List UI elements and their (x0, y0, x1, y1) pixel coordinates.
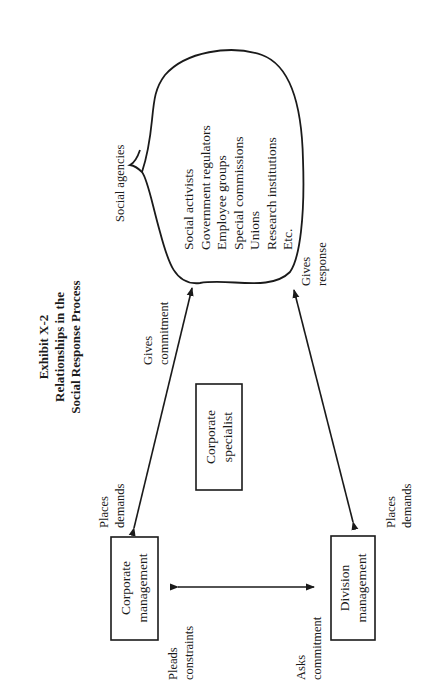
member-item: Government regulators (198, 125, 215, 250)
member-item: Etc. (280, 125, 297, 250)
member-item: Research institutions (264, 125, 281, 250)
title-line-1: Exhibit X-2 (36, 262, 52, 432)
arrow-div-agencies (294, 290, 353, 522)
member-item: Special commissions (231, 125, 248, 250)
corporate-management-label: Corporate management (117, 541, 151, 635)
member-item: Social activists (181, 125, 198, 250)
pleads-constraints-label: Pleads constraints (165, 626, 197, 680)
division-management-label: Division management (336, 541, 370, 635)
social-agencies-pointer (130, 150, 142, 172)
places-demands-corp-label: Places demands (96, 484, 128, 528)
gives-commitment-label: Gives commitment (140, 302, 172, 365)
title-line-2: Relationships in the (52, 262, 68, 432)
social-agencies-label: Social agencies (112, 145, 128, 222)
places-demands-div-label: Places demands (383, 484, 415, 528)
title-line-3: Social Response Process (68, 262, 84, 432)
gives-response-label: Gives response (298, 242, 330, 286)
member-item: Unions (247, 125, 264, 250)
asks-commitment-label: Asks commitment (293, 617, 325, 680)
exhibit-title: Exhibit X-2 Relationships in the Social … (36, 262, 84, 432)
corporate-specialist-label: Corporate specialist (202, 389, 236, 485)
member-item: Employee groups (214, 125, 231, 250)
social-agencies-members: Social activists Government regulators E… (181, 125, 297, 250)
